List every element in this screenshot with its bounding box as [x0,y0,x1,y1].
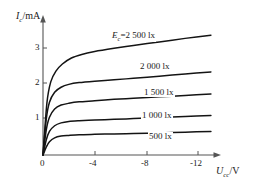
x-axis-label: Ucc/V [216,166,239,179]
curve-label-1500lx: 1 500 lx [143,88,175,97]
x-tick-label-0: 0 [40,159,45,168]
curve-label-1000lx: 1 000 lx [141,111,173,120]
x-tick-marks [95,151,198,155]
curve-series-group [43,35,211,155]
x-tick-label-minus8: -8 [141,159,149,168]
curve-label-text-2500: =2 500 lx [120,30,155,40]
y-axis-label: Ic/mA [16,11,40,24]
x-axis-label-unit: /V [229,165,239,176]
curve-500lx [43,131,211,155]
x-tick-label-minus12: -12 [190,159,202,168]
y-tick-label-3: 3 [35,43,40,52]
curve-2000lx [43,72,211,155]
y-tick-label-1: 1 [35,113,40,122]
y-axis-label-unit: /mA [22,10,40,21]
photo-transistor-output-characteristics-chart: Ic/mA Ucc/V 1 2 3 0 -4 -8 -12 Ec=2 500 l… [0,0,264,185]
x-tick-label-minus4: -4 [89,159,97,168]
x-axis-arrow-icon [214,152,222,158]
curve-label-2000lx: 2 000 lx [139,62,171,71]
curve-label-2500lx: Ec=2 500 lx [111,31,156,42]
curve-label-500lx: 500 lx [148,132,173,141]
curve-1500lx [43,94,211,155]
y-tick-label-2: 2 [35,78,40,87]
y-axis-arrow-icon [40,15,46,23]
